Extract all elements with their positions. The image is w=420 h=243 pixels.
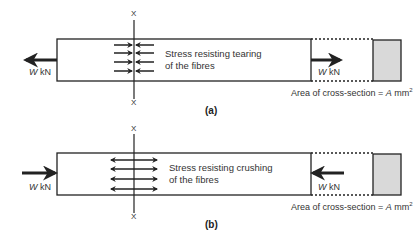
section-label-bottom-a: X: [131, 98, 136, 107]
area-label-a: Area of cross-section = A mm2: [291, 85, 413, 99]
stress-description-a: Stress resisting tearing of the fibres: [165, 48, 262, 72]
area-label-b: Area of cross-section = A mm2: [291, 199, 413, 213]
caption-b: (b): [205, 219, 218, 230]
section-label-top-a: X: [131, 9, 136, 18]
cross-section-a: [373, 40, 401, 81]
cross-section-b: [373, 154, 401, 195]
load-label-right-b: W kN: [318, 182, 340, 193]
section-label-top-b: X: [131, 124, 136, 133]
section-label-bottom-b: X: [131, 212, 136, 221]
caption-a: (a): [205, 105, 217, 116]
load-label-left-a: W kN: [29, 67, 51, 78]
load-label-left-b: W kN: [29, 182, 51, 193]
load-label-right-a: W kN: [318, 67, 340, 78]
stress-description-b: Stress resisting crushing of the fibres: [169, 162, 272, 186]
